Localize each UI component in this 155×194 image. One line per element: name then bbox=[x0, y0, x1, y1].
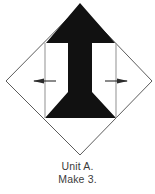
figure-caption: Unit A. Make 3. bbox=[0, 160, 155, 186]
caption-make-count: Make 3. bbox=[0, 173, 155, 186]
quilt-block-figure bbox=[0, 0, 155, 160]
caption-unit-label: Unit A. bbox=[0, 160, 155, 173]
diagram-page: Unit A. Make 3. bbox=[0, 0, 155, 194]
